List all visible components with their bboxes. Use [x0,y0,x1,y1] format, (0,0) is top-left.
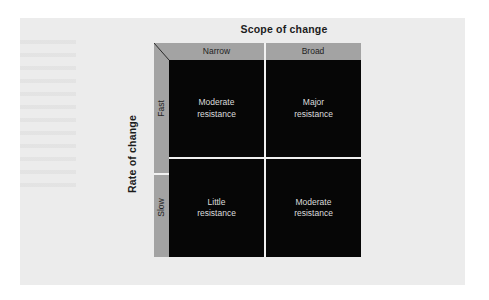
quadrant-fast-narrow: Moderate resistance [169,60,264,157]
row-header-band: Fast Slow [154,60,169,257]
quadrant-fast-narrow-line2: resistance [197,109,236,119]
column-header-divider [264,43,266,60]
quadrant-slow-broad: Moderate resistance [266,159,361,257]
scanned-page-sheet: Scope of change Rate of change Narrow Br… [20,18,465,285]
plot-divider-horizontal [169,157,361,159]
column-header-band: Narrow Broad [154,43,361,60]
plot-area: Moderate resistance Major resistance Lit… [169,60,361,257]
row-header-fast: Fast [154,60,169,157]
column-header-narrow: Narrow [169,43,264,60]
quadrant-slow-narrow-line1: Little [208,197,226,207]
resistance-to-change-matrix: Scope of change Rate of change Narrow Br… [105,18,445,285]
quadrant-slow-narrow: Little resistance [169,159,264,257]
y-axis-title: Rate of change [126,94,138,214]
quadrant-fast-narrow-line1: Moderate [199,97,235,107]
column-header-broad: Broad [265,43,361,60]
quadrant-fast-broad: Major resistance [266,60,361,157]
quadrant-slow-broad-line1: Moderate [296,197,332,207]
row-header-divider [154,173,169,175]
quadrant-slow-narrow-line2: resistance [197,208,236,218]
bleed-through-artifact [20,40,76,190]
quadrant-fast-broad-line2: resistance [294,109,333,119]
matrix-frame: Narrow Broad Fast Slow Moderat [154,43,361,257]
chart-title: Scope of change [155,23,413,35]
quadrant-slow-broad-line2: resistance [294,208,333,218]
quadrant-fast-broad-line1: Major [303,97,324,107]
